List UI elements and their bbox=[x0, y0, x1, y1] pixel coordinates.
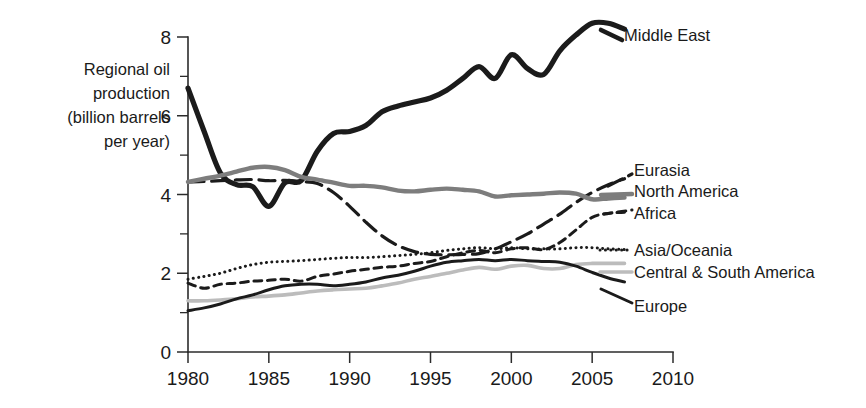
series-line-north-america bbox=[188, 167, 625, 200]
leader-line-eurasia bbox=[608, 174, 632, 186]
y-tick-label-6: 6 bbox=[160, 106, 171, 127]
series-label-europe: Europe bbox=[634, 296, 687, 316]
chart-container: Regional oil production (billion barrels… bbox=[0, 0, 866, 408]
leader-line-middle-east bbox=[601, 30, 622, 40]
x-tick-label-1985: 1985 bbox=[248, 368, 290, 389]
leader-line-north-america bbox=[601, 194, 632, 195]
tick-labels-group: 024681980198519901995200020052010 bbox=[160, 27, 694, 389]
x-tick-label-2010: 2010 bbox=[652, 368, 694, 389]
series-label-asia-oceania: Asia/Oceania bbox=[634, 240, 732, 260]
series-group bbox=[188, 22, 625, 311]
x-tick-label-1990: 1990 bbox=[329, 368, 371, 389]
line-chart-plot: 024681980198519901995200020052010 bbox=[0, 0, 866, 408]
series-line-middle-east bbox=[188, 22, 625, 206]
x-tick-label-2000: 2000 bbox=[490, 368, 532, 389]
series-label-central-south-america: Central & South America bbox=[634, 262, 815, 282]
leader-line-africa bbox=[604, 210, 632, 214]
x-tick-label-2005: 2005 bbox=[571, 368, 613, 389]
y-tick-label-0: 0 bbox=[160, 342, 171, 363]
x-tick-label-1995: 1995 bbox=[409, 368, 451, 389]
series-label-north-america: North America bbox=[634, 181, 739, 201]
leader-line-europe bbox=[601, 289, 632, 303]
series-label-eurasia: Eurasia bbox=[634, 160, 690, 180]
y-tick-label-2: 2 bbox=[160, 263, 171, 284]
series-label-africa: Africa bbox=[634, 203, 676, 223]
x-tick-label-1980: 1980 bbox=[167, 368, 209, 389]
series-label-middle-east: Middle East bbox=[624, 25, 710, 45]
y-tick-label-4: 4 bbox=[160, 185, 171, 206]
y-tick-label-8: 8 bbox=[160, 27, 171, 48]
